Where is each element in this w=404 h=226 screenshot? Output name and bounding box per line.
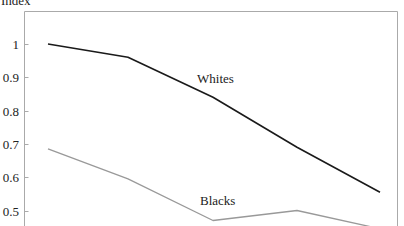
line-chart: Index 10.90.80.70.60.5WhitesBlacks xyxy=(0,0,404,226)
series-label-blacks: Blacks xyxy=(200,193,235,208)
series-label-whites: Whites xyxy=(197,71,234,86)
plot-area: 10.90.80.70.60.5WhitesBlacks xyxy=(0,0,404,226)
y-tick-label: 1 xyxy=(13,37,20,52)
y-tick-label: 0.7 xyxy=(3,137,20,152)
y-tick-label: 0.9 xyxy=(3,70,19,85)
y-tick-label: 0.5 xyxy=(3,204,19,219)
y-tick-label: 0.6 xyxy=(3,170,20,185)
series-line-whites xyxy=(48,44,380,192)
y-tick-label: 0.8 xyxy=(3,104,19,119)
y-axis-label: Index xyxy=(1,0,31,9)
series-line-blacks xyxy=(48,149,380,226)
